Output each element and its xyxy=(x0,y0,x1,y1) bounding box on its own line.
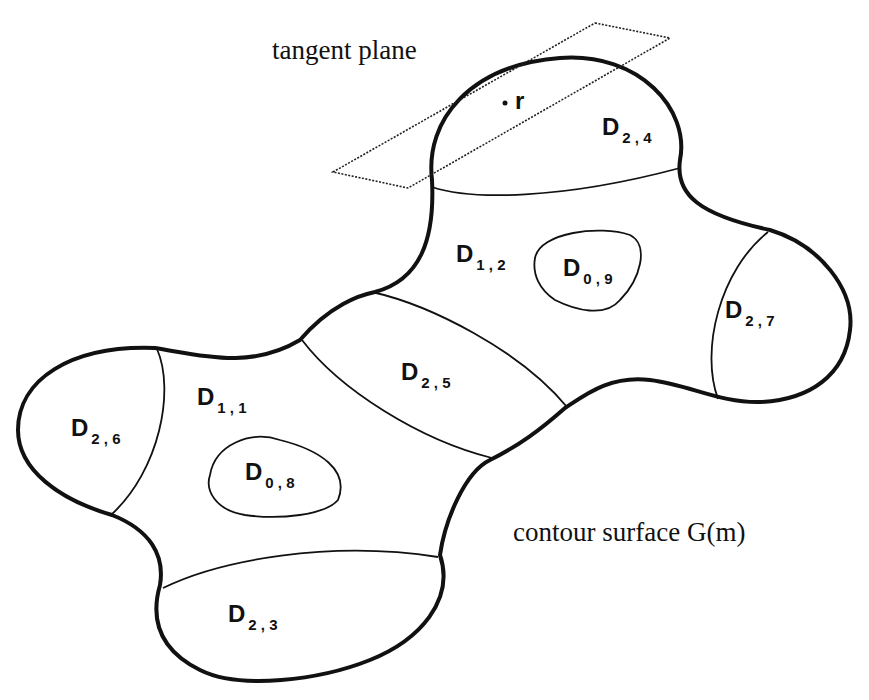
region-label-d26: D2 , 6 xyxy=(71,414,121,447)
contour-surface-diagram: r tangent plane contour surface G(m) D2 … xyxy=(0,0,869,700)
point-r-label: r xyxy=(515,87,524,114)
region-label-d09: D0 , 9 xyxy=(563,254,613,287)
region-label-d27: D2 , 7 xyxy=(725,296,775,329)
region-label-d25: D2 , 5 xyxy=(401,358,451,391)
region-label-d12: D1 , 2 xyxy=(456,240,506,273)
point-r-dot xyxy=(503,101,508,106)
region-label-d11: D1 , 1 xyxy=(197,383,247,416)
contour-surface-label: contour surface G(m) xyxy=(513,517,745,547)
region-label-d08: D0 , 8 xyxy=(245,458,295,491)
boundary-d25-top xyxy=(372,292,567,407)
region-label-d23: D2 , 3 xyxy=(228,600,278,633)
boundary-d24 xyxy=(432,168,680,195)
region-label-d24: D2 , 4 xyxy=(602,113,652,146)
surface-outline xyxy=(18,58,850,681)
tangent-plane-label: tangent plane xyxy=(272,35,417,65)
boundary-d25-bottom xyxy=(302,340,492,458)
boundary-d23 xyxy=(163,551,438,588)
